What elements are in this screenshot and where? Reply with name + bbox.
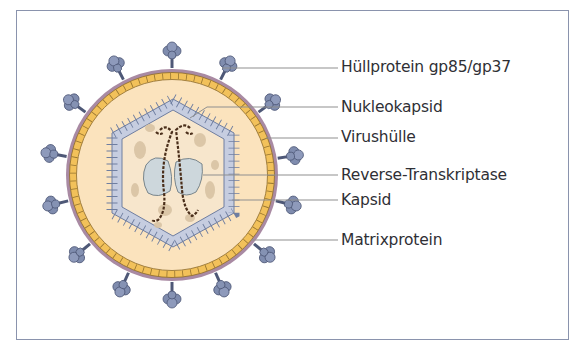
label-huellprotein: Hüllprotein gp85/gp37 — [341, 58, 511, 76]
label-reverse-transkriptase: Reverse-Transkriptase — [341, 166, 507, 184]
label-kapsid: Kapsid — [341, 191, 391, 209]
label-nukleokapsid: Nukleokapsid — [341, 98, 443, 116]
label-matrixprotein: Matrixprotein — [341, 231, 442, 249]
label-virushuelle: Virushülle — [341, 128, 416, 146]
